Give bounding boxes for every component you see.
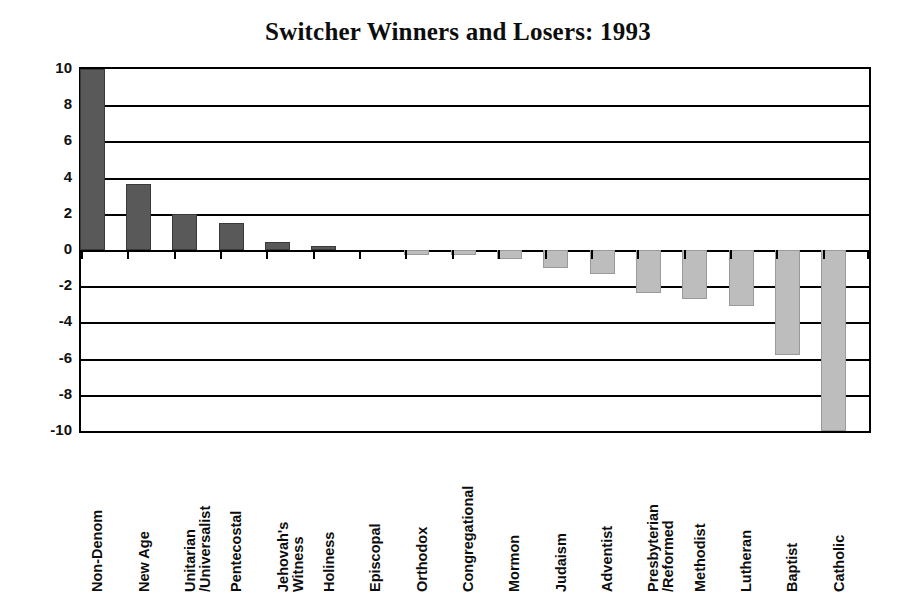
x-axis-label-line: Mormon [506, 535, 522, 592]
x-axis-label-line: Orthodox [414, 527, 430, 592]
x-tick-mark [776, 250, 778, 259]
chart-figure: Switcher Winners and Losers: 1993 108642… [0, 0, 916, 597]
x-axis-label-line: New Age [136, 531, 152, 592]
bar [543, 250, 568, 268]
y-tick-label: -10 [2, 421, 72, 438]
x-tick-mark [359, 250, 361, 259]
x-axis-label-line: Baptist [784, 543, 800, 592]
x-tick-mark [684, 250, 686, 259]
x-tick-mark [637, 250, 639, 259]
x-axis-label-line: /Reformed [661, 504, 676, 592]
x-tick-mark [591, 250, 593, 259]
x-tick-mark [313, 250, 315, 259]
y-tick-label: -6 [2, 348, 72, 365]
y-tick-label: 6 [2, 131, 72, 148]
y-tick-label: 0 [2, 240, 72, 257]
y-tick-label: 2 [2, 203, 72, 220]
bar [451, 250, 476, 255]
x-axis-label-line: Adventist [599, 526, 615, 592]
x-axis-label-line: Presbyterian [645, 504, 661, 592]
x-axis-label-line: Judaism [553, 533, 569, 592]
y-tick-label: -2 [2, 276, 72, 293]
bar [682, 250, 707, 299]
chart-title: Switcher Winners and Losers: 1993 [0, 18, 916, 46]
bar [80, 69, 105, 250]
bar [821, 250, 846, 431]
bar [404, 250, 429, 255]
bar [219, 223, 244, 250]
x-tick-mark [174, 250, 176, 259]
x-tick-mark [823, 250, 825, 259]
x-axis-label-line: Non-Denom [89, 510, 105, 592]
x-axis-label-line: Congregational [460, 486, 476, 592]
x-axis-label-line: Holiness [321, 532, 337, 592]
bar [126, 184, 151, 250]
x-tick-mark [127, 250, 129, 259]
x-tick-mark [220, 250, 222, 259]
plot-area [79, 67, 871, 433]
x-axis-label-line: Witness [291, 522, 306, 592]
x-tick-mark [867, 250, 869, 259]
x-tick-mark [81, 250, 83, 259]
x-axis-label-line: Episcopal [367, 524, 383, 593]
x-axis-label-line: Jehovah's [275, 522, 291, 592]
x-tick-mark [498, 250, 500, 259]
bar [636, 250, 661, 293]
x-axis-label: Catholic [832, 437, 889, 595]
y-tick-label: 8 [2, 95, 72, 112]
x-tick-mark [452, 250, 454, 259]
x-tick-mark [405, 250, 407, 259]
y-tick-label: -8 [2, 384, 72, 401]
bar [729, 250, 754, 306]
y-tick-label: 4 [2, 167, 72, 184]
x-tick-mark [266, 250, 268, 259]
x-axis-label-line: Pentecostal [228, 511, 244, 592]
y-tick-mark [81, 431, 89, 433]
y-axis-tick-labels: 1086420-2-4-6-8-10 [0, 67, 72, 433]
x-axis-label-line: Unitarian [182, 529, 198, 592]
bar-series [81, 69, 869, 431]
bar [775, 250, 800, 355]
x-axis-label-line: Lutheran [738, 530, 754, 592]
bar [265, 242, 290, 250]
x-axis-label-line: /Universalist [198, 506, 213, 592]
y-tick-label: -4 [2, 312, 72, 329]
x-axis-label-line: Catholic [831, 535, 847, 592]
bar [497, 250, 522, 259]
bar [590, 250, 615, 274]
x-axis-label: Baptist [785, 437, 834, 595]
y-tick-label: 10 [2, 59, 72, 76]
bar [172, 214, 197, 250]
x-axis-label-line: Methodist [692, 524, 708, 592]
x-tick-mark [545, 250, 547, 259]
bar [311, 246, 336, 250]
x-tick-mark [730, 250, 732, 259]
x-axis-category-labels: Non-DenomNew AgeUnitarian/UniversalistPe… [79, 437, 871, 595]
